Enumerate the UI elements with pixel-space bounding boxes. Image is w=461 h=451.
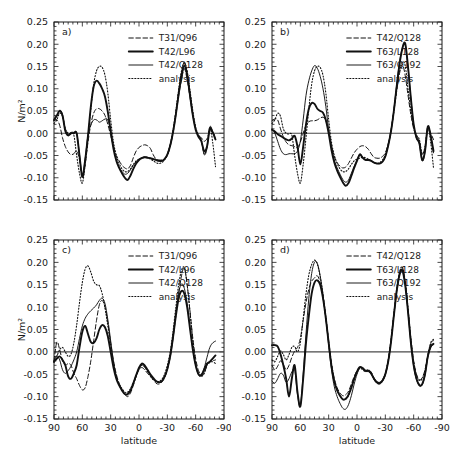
x-tick-label: 60 [76,422,88,433]
y-tick-label: 0.10 [27,302,48,313]
y-tick-label: -0.05 [23,369,48,380]
x-tick-label: -30 [160,422,176,433]
x-tick-label: -60 [188,422,204,433]
y-tick-label: 0.20 [245,257,266,268]
plot-frame [54,22,224,200]
y-tick-label: 0.05 [27,324,48,335]
y-tick-label: 0.10 [245,302,266,313]
legend-label-t63-q192: T63/Q192 [376,60,421,70]
x-axis-label: latitude [339,435,376,446]
y-tick-label: 0.05 [245,324,266,335]
legend-label-t42-l96: T42/L96 [158,47,196,57]
legend-label-analysis: analysis [377,292,414,302]
legend-label-analysis: analysis [159,74,196,84]
y-tick-label: 0.15 [245,61,266,72]
legend-label-t31-q96: T31/Q96 [158,251,198,261]
panel-a: 0.250.200.150.100.050.00-0.05-0.10-0.15N… [0,0,231,226]
figure-four-panel-zonal-stress: 0.250.200.150.100.050.00-0.05-0.10-0.15N… [0,0,461,451]
x-axis-label: latitude [121,435,158,446]
y-tick-label: 0.20 [245,39,266,50]
plot-area-b: 0.250.200.150.100.050.00-0.05-0.10-0.15b… [231,0,461,226]
y-tick-label: 0.10 [27,83,48,94]
y-axis-label: N/m² [16,318,27,342]
y-tick-label: 0.20 [27,257,48,268]
panel-c: 0.250.200.150.100.050.00-0.05-0.10-0.159… [0,226,231,451]
y-tick-label: -0.10 [23,172,48,183]
panel-label: a) [62,26,72,37]
legend-label-t42-q128: T42/Q128 [158,60,204,70]
y-tick-label: 0.00 [27,128,48,139]
legend-label-t42-q128: T42/Q128 [376,251,422,261]
x-tick-label: 60 [294,422,306,433]
legend-label-t42-q128: T42/Q128 [376,33,422,43]
y-tick-label: 0.20 [27,39,48,50]
legend-label-t42-q128: T42/Q128 [158,278,204,288]
y-tick-label: 0.25 [245,16,266,27]
panel-label: d) [280,244,290,255]
y-tick-label: -0.05 [241,150,266,161]
y-tick-label: -0.15 [23,413,48,424]
y-tick-label: -0.05 [23,150,48,161]
y-tick-label: 0.00 [27,346,48,357]
plot-area-c: 0.250.200.150.100.050.00-0.05-0.10-0.159… [0,226,231,451]
plot-area-d: 0.250.200.150.100.050.00-0.05-0.10-0.159… [231,226,461,451]
y-tick-label: 0.10 [245,83,266,94]
panel-d: 0.250.200.150.100.050.00-0.05-0.10-0.159… [231,226,461,451]
plot-frame [54,240,224,419]
y-tick-label: 0.05 [27,105,48,116]
legend-label-t63-q192: T63/Q192 [376,278,421,288]
plot-area-a: 0.250.200.150.100.050.00-0.05-0.10-0.15N… [0,0,231,226]
y-tick-label: -0.10 [241,391,266,402]
legend-label-analysis: analysis [377,74,414,84]
y-tick-label: 0.00 [245,346,266,357]
y-tick-label: 0.25 [27,234,48,245]
legend-label-t63-l128: T63/L128 [376,47,419,57]
x-tick-label: -30 [378,422,394,433]
y-tick-label: -0.10 [241,172,266,183]
x-tick-label: 90 [48,422,60,433]
y-tick-label: 0.25 [245,234,266,245]
y-tick-label: 0.15 [27,61,48,72]
y-tick-label: 0.00 [245,128,266,139]
x-tick-label: 0 [136,422,142,433]
y-tick-label: 0.15 [245,279,266,290]
x-tick-label: -90 [216,422,231,433]
y-tick-label: -0.15 [23,194,48,205]
x-tick-label: 90 [266,422,278,433]
legend-label-t63-l128: T63/L128 [376,265,419,275]
y-tick-label: 0.15 [27,279,48,290]
y-tick-label: -0.15 [241,194,266,205]
x-tick-label: 0 [354,422,360,433]
x-tick-label: -90 [434,422,450,433]
legend-label-analysis: analysis [159,292,196,302]
panel-label: c) [62,244,71,255]
panel-label: b) [280,26,290,37]
y-tick-label: 0.25 [27,16,48,27]
y-tick-label: -0.15 [241,413,266,424]
x-tick-label: 30 [105,422,117,433]
y-tick-label: -0.05 [241,369,266,380]
x-tick-label: -60 [406,422,422,433]
x-tick-label: 30 [323,422,335,433]
y-axis-label: N/m² [16,99,27,123]
y-tick-label: 0.05 [245,105,266,116]
y-tick-label: -0.10 [23,391,48,402]
panel-b: 0.250.200.150.100.050.00-0.05-0.10-0.15b… [231,0,461,226]
legend-label-t42-l96: T42/L96 [158,265,196,275]
series-line-t31-q96 [54,69,216,178]
legend-label-t31-q96: T31/Q96 [158,33,198,43]
